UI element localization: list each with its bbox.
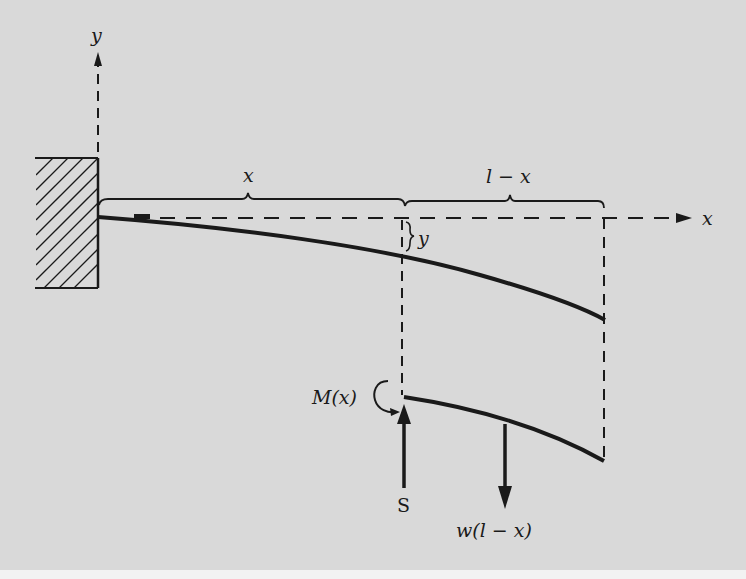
- y-axis-label: y: [90, 24, 102, 46]
- shear-arrowhead-icon: [397, 404, 411, 424]
- x-axis-arrow-icon: [676, 213, 692, 223]
- dimension-brace-x: [99, 193, 405, 206]
- fixed-wall-support: [35, 158, 98, 288]
- moment-arrowhead-icon: [390, 408, 400, 416]
- deflection-brace: [406, 222, 414, 251]
- moment-arrow: [374, 381, 400, 416]
- moment-label: M(x): [311, 386, 357, 408]
- x-axis-label: x: [702, 207, 713, 229]
- deflected-beam: [98, 217, 605, 320]
- shear-label: S: [397, 494, 410, 516]
- diagram-svg: y x x l − x y: [0, 0, 746, 579]
- span-label-l-minus-x: l − x: [486, 165, 531, 187]
- beam-marker: [134, 214, 150, 219]
- y-axis-arrow-icon: [94, 52, 102, 66]
- shear-force-arrow: [397, 404, 411, 488]
- load-label: w(l − x): [456, 519, 532, 541]
- dimension-brace-l-minus-x: [405, 195, 604, 208]
- load-resultant-arrow: [498, 424, 512, 509]
- deflection-label: y: [417, 227, 429, 249]
- x-axis: x: [160, 207, 713, 229]
- beam-diagram: y x x l − x y: [0, 0, 746, 579]
- y-axis: y: [90, 24, 102, 152]
- load-arrowhead-icon: [498, 486, 512, 509]
- span-label-x: x: [243, 164, 254, 186]
